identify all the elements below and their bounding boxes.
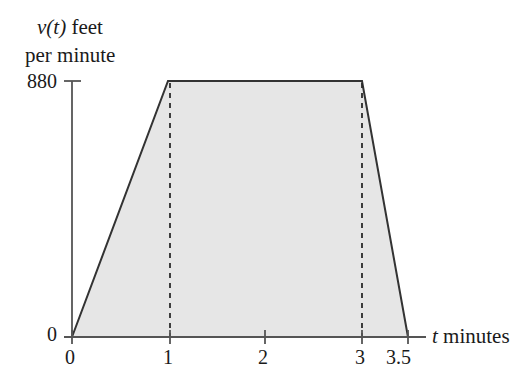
y-axis-caption-units-feet: feet [66, 15, 103, 39]
x-axis-tick-label-3: 3 [355, 347, 365, 367]
y-axis-caption-line1: v(t) feet [37, 17, 103, 38]
x-axis-tick-label-1: 1 [163, 347, 173, 367]
x-axis-caption-units-minutes: minutes [438, 324, 510, 348]
x-axis-tick-label-0: 0 [65, 347, 75, 367]
y-axis-tick-label-880: 880 [27, 71, 57, 91]
x-axis-tick-label-2: 2 [258, 347, 268, 367]
y-axis-tick-label-0: 0 [47, 324, 57, 344]
y-axis-caption-variable: v(t) [37, 15, 66, 39]
y-axis-caption-line2: per minute [25, 45, 115, 66]
velocity-graph-figure: v(t) feet per minute 880 0 0 1 2 3 3.5 t… [0, 0, 532, 381]
x-axis-tick-label-3-5: 3.5 [386, 347, 411, 367]
x-axis-caption: t minutes [432, 326, 510, 347]
shaded-area-region [72, 81, 408, 337]
